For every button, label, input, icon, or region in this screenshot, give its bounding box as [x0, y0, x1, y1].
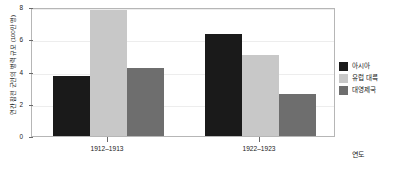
bar: [53, 76, 90, 136]
legend: 아시아유럽 대륙대영제국: [339, 60, 394, 96]
bar: [242, 55, 279, 136]
bar: [279, 94, 316, 136]
plot-area: [31, 8, 335, 137]
bar: [90, 10, 127, 136]
legend-label: 유럽 대륙: [352, 75, 378, 82]
legend-item: 대영제국: [339, 84, 394, 96]
x-axis-tick: [259, 137, 260, 142]
y-axis-tick: [29, 8, 33, 9]
legend-label: 아시아: [352, 63, 370, 70]
bar-chart: 연간 참전 군인의 병력 규모 (100만 명) 02468 1912–1913…: [0, 0, 394, 175]
legend-label: 대영제국: [352, 87, 376, 94]
y-axis-tick: [29, 40, 33, 41]
legend-swatch: [339, 86, 348, 95]
legend-item: 아시아: [339, 60, 394, 72]
legend-swatch: [339, 62, 348, 71]
x-axis-tick-label: 1912–1913: [67, 146, 147, 153]
y-axis-tick-label: 4: [7, 70, 23, 76]
y-axis-tick-label: 0: [7, 134, 23, 140]
legend-item: 유럽 대륙: [339, 72, 394, 84]
bar: [127, 68, 164, 136]
y-axis-tick-label: 8: [7, 5, 23, 11]
y-axis-tick: [29, 137, 33, 138]
y-axis-tick-label: 2: [7, 102, 23, 108]
gridline: [32, 74, 334, 75]
y-axis-tick: [29, 105, 33, 106]
gridline: [32, 41, 334, 42]
legend-swatch: [339, 74, 348, 83]
y-axis-title: 연간 참전 군인의 병력 규모 (100만 명): [10, 1, 16, 129]
y-axis-tick-label: 6: [7, 37, 23, 43]
y-axis-tick: [29, 73, 33, 74]
x-axis-title: 연도: [352, 151, 364, 158]
x-axis-tick-label: 1922–1923: [219, 146, 299, 153]
bar: [205, 34, 242, 136]
x-axis-tick: [107, 137, 108, 142]
gridline: [32, 9, 334, 10]
